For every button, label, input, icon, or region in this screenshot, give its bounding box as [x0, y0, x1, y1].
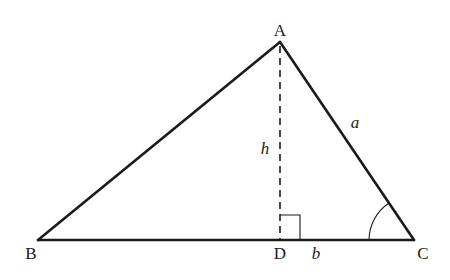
angle-arc-c [369, 203, 389, 240]
label-foot-d: D [274, 244, 286, 263]
label-vertex-c: C [417, 244, 428, 263]
triangle-diagram: A B C D h a b [0, 0, 450, 280]
right-angle-marker [280, 215, 300, 240]
label-altitude-h: h [261, 139, 270, 158]
label-segment-b: b [312, 244, 321, 263]
label-vertex-b: B [25, 244, 36, 263]
label-vertex-a: A [274, 21, 287, 40]
side-ab [38, 42, 280, 240]
label-side-a: a [351, 113, 360, 132]
side-ac [280, 42, 414, 240]
